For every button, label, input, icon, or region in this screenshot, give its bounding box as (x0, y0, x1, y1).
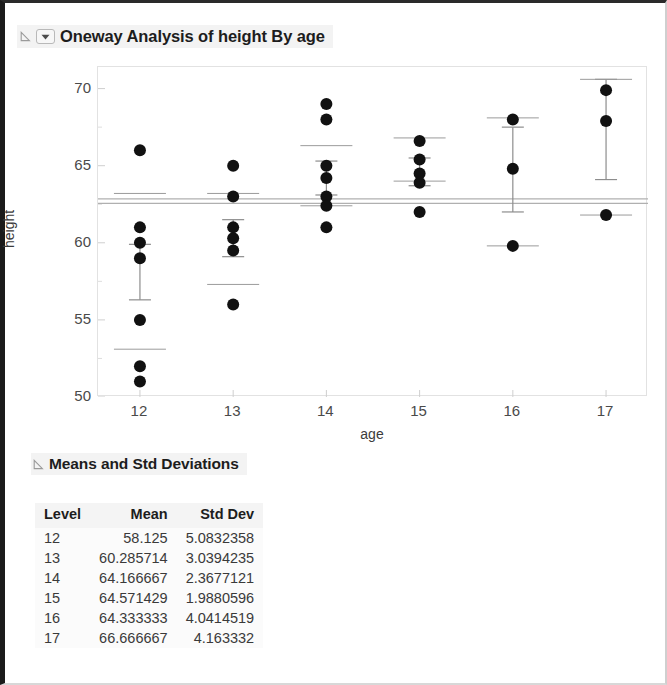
data-point[interactable] (134, 376, 146, 388)
x-tick-label: 16 (503, 402, 520, 419)
data-point[interactable] (227, 160, 239, 172)
jmp-report-window: Oneway Analysis of height By age height … (0, 0, 667, 685)
y-tick-label: 50 (57, 387, 91, 404)
y-tick-label: 65 (57, 156, 91, 173)
y-axis-title: height (1, 210, 17, 248)
data-point[interactable] (507, 113, 519, 125)
data-point[interactable] (134, 314, 146, 326)
x-tick-label: 15 (410, 402, 427, 419)
data-point[interactable] (414, 177, 426, 189)
triangle-open-icon[interactable] (33, 459, 44, 470)
cell-std-dev: 4.163332 (177, 628, 264, 648)
y-tick-label: 55 (57, 310, 91, 327)
table-row[interactable]: 1664.3333334.0414519 (35, 608, 263, 628)
data-point[interactable] (507, 163, 519, 175)
group-15 (394, 135, 446, 218)
data-point[interactable] (227, 245, 239, 257)
cell-mean: 66.666667 (90, 628, 177, 648)
triangle-open-icon[interactable] (20, 31, 31, 42)
cell-mean: 58.125 (90, 528, 177, 548)
y-axis-tick-labels: 5055606570 (47, 66, 91, 396)
table-row[interactable]: 1766.6666674.163332 (35, 628, 263, 648)
cell-std-dev: 4.0414519 (177, 608, 264, 628)
data-point[interactable] (134, 221, 146, 233)
chevron-down-icon[interactable] (36, 29, 55, 44)
cell-std-dev: 3.0394235 (177, 548, 264, 568)
column-header-std-dev[interactable]: Std Dev (177, 503, 264, 528)
cell-level: 13 (35, 548, 90, 568)
column-header-mean[interactable]: Mean (90, 503, 177, 528)
report-content: Oneway Analysis of height By age height … (5, 3, 665, 683)
data-point[interactable] (414, 154, 426, 166)
group-markers (114, 79, 632, 387)
group-13 (207, 160, 259, 311)
cell-mean: 64.333333 (90, 608, 177, 628)
oneway-scatter-chart: height 5055606570 121314151617 age (5, 58, 667, 448)
cell-std-dev: 1.9880596 (177, 588, 264, 608)
cell-mean: 64.166667 (90, 568, 177, 588)
means-std-deviations-title: Means and Std Deviations (49, 455, 239, 473)
table-row[interactable]: 1360.2857143.0394235 (35, 548, 263, 568)
group-12 (114, 144, 166, 387)
data-point[interactable] (227, 232, 239, 244)
table-header-row: Level Mean Std Dev (35, 503, 263, 528)
data-point[interactable] (414, 206, 426, 218)
cell-std-dev: 2.3677121 (177, 568, 264, 588)
group-17 (580, 79, 632, 221)
oneway-analysis-title: Oneway Analysis of height By age (60, 27, 325, 46)
group-16 (487, 113, 539, 251)
data-point[interactable] (134, 237, 146, 249)
x-tick-label: 13 (224, 402, 241, 419)
plot-canvas[interactable] (98, 67, 648, 397)
data-point[interactable] (320, 113, 332, 125)
data-point[interactable] (320, 172, 332, 184)
data-point[interactable] (320, 200, 332, 212)
axis-ticks (98, 89, 606, 397)
data-point[interactable] (134, 144, 146, 156)
data-point[interactable] (600, 115, 612, 127)
table-row[interactable]: 1258.1255.0832358 (35, 528, 263, 548)
cell-mean: 60.285714 (90, 548, 177, 568)
group-14 (300, 98, 352, 233)
data-point[interactable] (134, 252, 146, 264)
data-point[interactable] (227, 298, 239, 310)
data-point[interactable] (134, 360, 146, 372)
cell-level: 14 (35, 568, 90, 588)
means-std-deviations-table: Level Mean Std Dev 1258.1255.08323581360… (35, 503, 263, 648)
means-std-deviations-outline-header[interactable]: Means and Std Deviations (31, 453, 247, 475)
cell-mean: 64.571429 (90, 588, 177, 608)
y-tick-label: 60 (57, 233, 91, 250)
cell-level: 16 (35, 608, 90, 628)
x-axis-tick-labels: 121314151617 (97, 402, 647, 424)
grand-mean-lines (98, 199, 648, 204)
cell-level: 12 (35, 528, 90, 548)
oneway-analysis-outline-header[interactable]: Oneway Analysis of height By age (17, 25, 333, 48)
x-axis-title: age (97, 426, 647, 442)
data-point[interactable] (600, 209, 612, 221)
table-row[interactable]: 1564.5714291.9880596 (35, 588, 263, 608)
data-point[interactable] (227, 221, 239, 233)
data-point[interactable] (507, 240, 519, 252)
plot-frame (97, 66, 647, 396)
x-tick-label: 14 (317, 402, 334, 419)
data-point[interactable] (320, 98, 332, 110)
column-header-level[interactable]: Level (35, 503, 90, 528)
y-tick-label: 70 (57, 79, 91, 96)
data-point[interactable] (600, 84, 612, 96)
table-row[interactable]: 1464.1666672.3677121 (35, 568, 263, 588)
x-tick-label: 12 (131, 402, 148, 419)
data-point[interactable] (320, 160, 332, 172)
data-point[interactable] (414, 135, 426, 147)
cell-std-dev: 5.0832358 (177, 528, 264, 548)
cell-level: 15 (35, 588, 90, 608)
data-point[interactable] (320, 221, 332, 233)
data-point[interactable] (227, 191, 239, 203)
cell-level: 17 (35, 628, 90, 648)
x-tick-label: 17 (597, 402, 614, 419)
